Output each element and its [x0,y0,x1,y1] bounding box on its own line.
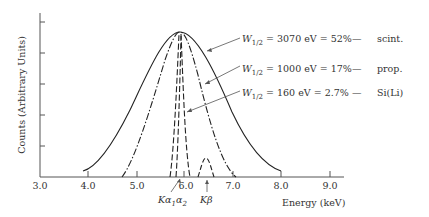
leader-prop [205,66,240,84]
x-axis-label: Energy (keV) [282,197,345,208]
svg-text:W1/2 = 160 eV = 2.7%: W1/2 = 160 eV = 2.7% [242,87,349,101]
leader-scint [207,38,240,51]
svg-text:4.0: 4.0 [80,180,95,191]
svg-text:Si(Li): Si(Li) [377,87,403,98]
label-kalpha: Kα1α2 [157,194,187,208]
y-axis-label: Counts (Arbitrary Units) [16,36,27,154]
svg-text:8.0: 8.0 [273,180,288,191]
svg-text:5.0: 5.0 [129,180,144,191]
x-tick-labels: 3.0 4.0 5.0 6.0 7.0 8.0 9.0 [32,180,337,191]
spectrum-chart: 3.0 4.0 5.0 6.0 7.0 8.0 9.0 Energy (keV)… [0,0,429,217]
label-kbeta: Kβ [199,194,213,205]
svg-text:—: — [352,63,362,74]
annotation-sili: W1/2 = 160 eV = 2.7% — Si(Li) [242,87,403,101]
curve-sili-b [181,34,190,177]
svg-text:—: — [352,33,362,44]
annotation-prop: W1/2 = 1000 eV = 17% — prop. [242,63,402,77]
leader-sili [187,91,240,112]
svg-text:7.0: 7.0 [225,180,240,191]
svg-text:prop.: prop. [377,63,402,74]
svg-text:—: — [352,87,362,98]
svg-text:W1/2 = 3070 eV = 52%: W1/2 = 3070 eV = 52% [242,33,352,47]
svg-text:3.0: 3.0 [32,180,47,191]
svg-text:scint.: scint. [377,33,403,44]
svg-text:9.0: 9.0 [322,180,337,191]
svg-text:6.0: 6.0 [178,180,193,191]
svg-text:W1/2 = 1000 eV = 17%: W1/2 = 1000 eV = 17% [242,63,352,77]
annotation-scint: W1/2 = 3070 eV = 52% — scint. [242,33,403,47]
curve-kbeta [198,158,214,177]
